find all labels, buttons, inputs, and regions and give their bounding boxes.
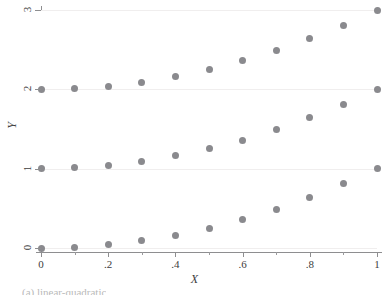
gridline — [41, 10, 377, 11]
data-point — [172, 232, 179, 239]
data-point — [374, 86, 381, 93]
x-tick-label: 0 — [27, 259, 55, 270]
data-point — [239, 216, 246, 223]
y-tick-label: 0 — [22, 241, 33, 255]
x-tick-mark — [108, 252, 109, 257]
gridline — [41, 169, 377, 170]
data-point — [206, 145, 213, 152]
data-point — [172, 73, 179, 80]
y-tick-mark — [35, 89, 41, 90]
x-tick-mark — [243, 252, 244, 257]
data-point — [138, 158, 145, 165]
data-point — [172, 152, 179, 159]
x-tick-mark-minor — [209, 252, 210, 255]
data-point — [306, 194, 313, 201]
data-point — [273, 47, 280, 54]
y-tick-label: 1 — [22, 161, 33, 175]
x-tick-mark — [377, 252, 378, 257]
gridline — [41, 248, 377, 249]
data-point — [306, 35, 313, 42]
y-axis-title: Y — [5, 106, 20, 146]
x-tick-mark — [310, 252, 311, 257]
x-tick-mark-minor — [276, 252, 277, 255]
data-point — [340, 22, 347, 29]
data-point — [239, 137, 246, 144]
data-point — [340, 180, 347, 187]
data-point — [138, 237, 145, 244]
data-point — [340, 101, 347, 108]
data-point — [273, 206, 280, 213]
x-axis-title: X — [0, 272, 389, 287]
y-tick-label: 3 — [22, 3, 33, 17]
data-point — [71, 85, 78, 92]
data-point — [71, 164, 78, 171]
data-point — [306, 114, 313, 121]
x-tick-label: .2 — [94, 259, 122, 270]
x-tick-mark-minor — [343, 252, 344, 255]
data-point — [374, 7, 381, 14]
scatter-plot-figure: Y 0123 0.2.4.6.81 X (a) linear-quadratic — [0, 0, 389, 295]
y-tick-mark — [35, 248, 41, 249]
gridline — [41, 89, 377, 90]
x-tick-mark — [41, 252, 42, 257]
data-point — [105, 83, 112, 90]
figure-caption: (a) linear-quadratic — [22, 286, 106, 295]
data-point — [105, 162, 112, 169]
data-point — [71, 244, 78, 251]
plot-area — [41, 10, 377, 248]
data-point — [273, 126, 280, 133]
data-point — [374, 165, 381, 172]
x-tick-label: 1 — [363, 259, 389, 270]
x-tick-label: .4 — [161, 259, 189, 270]
data-point — [105, 241, 112, 248]
x-tick-mark-minor — [75, 252, 76, 255]
x-tick-label: .6 — [229, 259, 257, 270]
data-point — [239, 57, 246, 64]
x-tick-label: .8 — [296, 259, 324, 270]
data-point — [138, 79, 145, 86]
y-tick-mark — [35, 10, 41, 11]
data-point — [206, 225, 213, 232]
x-tick-mark-minor — [142, 252, 143, 255]
y-tick-label: 2 — [22, 82, 33, 96]
data-point — [206, 66, 213, 73]
x-tick-mark — [175, 252, 176, 257]
y-tick-mark — [35, 169, 41, 170]
